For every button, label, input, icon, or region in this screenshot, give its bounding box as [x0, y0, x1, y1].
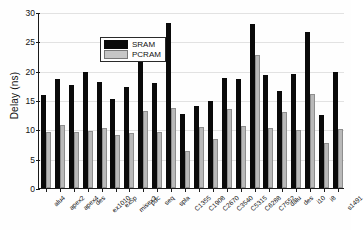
y-axis-tick-label: 10: [17, 125, 35, 135]
bar-group: [122, 87, 136, 188]
bar-pcram: [213, 139, 218, 188]
bar-group: [331, 72, 345, 188]
x-axis-tickmark: [282, 188, 283, 192]
bar-pcram: [102, 128, 107, 188]
bar-pcram: [46, 132, 51, 188]
x-axis-tickmark: [199, 188, 200, 192]
x-axis-tick-label: des: [302, 194, 315, 206]
bar-group: [303, 32, 317, 188]
x-axis-tickmark: [255, 188, 256, 192]
x-axis-tick-label: apex2: [67, 194, 85, 211]
bar-pcram: [74, 132, 79, 188]
bar-group: [206, 101, 220, 188]
bar-pcram: [185, 151, 190, 188]
x-axis-tickmark: [338, 188, 339, 192]
y-axis-tick-label: 0: [17, 184, 35, 194]
bar-pcram: [157, 132, 162, 188]
legend-label-pcram: PCRAM: [132, 51, 161, 59]
bar-group: [109, 99, 123, 188]
bar-pcram: [129, 133, 134, 188]
y-axis-tickmark: [36, 42, 40, 43]
x-axis-tickmark: [129, 188, 130, 192]
x-axis-tickmark: [296, 188, 297, 192]
x-axis-tickmark: [310, 188, 311, 192]
bar-pcram: [227, 109, 232, 188]
bar-pcram: [338, 129, 343, 188]
x-axis-tickmark: [116, 188, 117, 192]
legend-swatch-pcram: [104, 50, 128, 59]
x-axis-tickmark: [60, 188, 61, 192]
x-axis-tickmark: [241, 188, 242, 192]
y-axis-tickmark: [36, 72, 40, 73]
x-axis-tickmark: [171, 188, 172, 192]
y-axis-tick-label: 15: [17, 96, 35, 106]
x-axis-tick-label: alu4: [52, 194, 66, 208]
bar-group: [192, 106, 206, 188]
bar-group: [53, 79, 67, 188]
y-axis-tick-label: 5: [17, 155, 35, 165]
bar-pcram: [310, 94, 315, 188]
chart-legend: SRAM PCRAM: [100, 37, 166, 62]
bar-group: [275, 91, 289, 188]
bar-pcram: [268, 128, 273, 188]
x-axis-tickmark: [157, 188, 158, 192]
bar-group: [220, 78, 234, 188]
bar-group: [178, 114, 192, 189]
x-axis-tick-label: s1491: [346, 194, 364, 211]
x-axis-tick-label: spla: [177, 194, 191, 207]
x-axis-tick-label: i8: [328, 194, 337, 203]
bar-pcram: [60, 125, 65, 188]
bar-group: [67, 85, 81, 188]
y-axis-tick-label: 30: [17, 8, 35, 18]
bar-group: [150, 83, 164, 188]
bar-group: [317, 115, 331, 188]
bar-pcram: [88, 131, 93, 188]
bar-pcram: [199, 127, 204, 188]
y-axis-tick-label: 25: [17, 37, 35, 47]
bar-pcram: [296, 130, 301, 188]
bar-group: [39, 95, 53, 188]
x-axis-tickmark: [324, 188, 325, 192]
bar-pcram: [115, 135, 120, 188]
bar-pcram: [324, 143, 329, 188]
legend-swatch-sram: [104, 40, 128, 49]
bar-pcram: [255, 55, 260, 188]
x-axis-tick-label: i10: [315, 194, 326, 205]
x-axis-tick-label: seq: [163, 194, 176, 206]
x-axis-tickmark: [185, 188, 186, 192]
gridline: [39, 13, 344, 14]
bar-group: [234, 79, 248, 188]
bar-group: [81, 72, 95, 188]
x-axis-tickmark: [143, 188, 144, 192]
x-axis-tickmark: [213, 188, 214, 192]
bar-pcram: [171, 108, 176, 188]
x-axis-tickmark: [88, 188, 89, 192]
x-axis-tickmark: [102, 188, 103, 192]
y-axis-tick-label: 20: [17, 67, 35, 77]
legend-label-sram: SRAM: [132, 41, 155, 49]
bar-pcram: [143, 111, 148, 188]
bar-group: [248, 24, 262, 188]
x-axis-tickmark: [269, 188, 270, 192]
x-axis-tickmark: [46, 188, 47, 192]
bar-group: [95, 82, 109, 188]
legend-item-pcram: PCRAM: [104, 50, 161, 59]
bar-pcram: [282, 112, 287, 188]
y-axis-tickmark: [36, 189, 40, 190]
plot-area: 051015202530 SRAM PCRAM: [38, 13, 344, 189]
bar-group: [262, 75, 276, 188]
bar-group: [289, 74, 303, 188]
x-axis-tickmark: [74, 188, 75, 192]
y-axis-tickmark: [36, 13, 40, 14]
gridline: [39, 42, 344, 43]
bar-group: [164, 23, 178, 188]
legend-item-sram: SRAM: [104, 40, 161, 49]
bar-pcram: [241, 126, 246, 188]
x-axis-tickmark: [227, 188, 228, 192]
